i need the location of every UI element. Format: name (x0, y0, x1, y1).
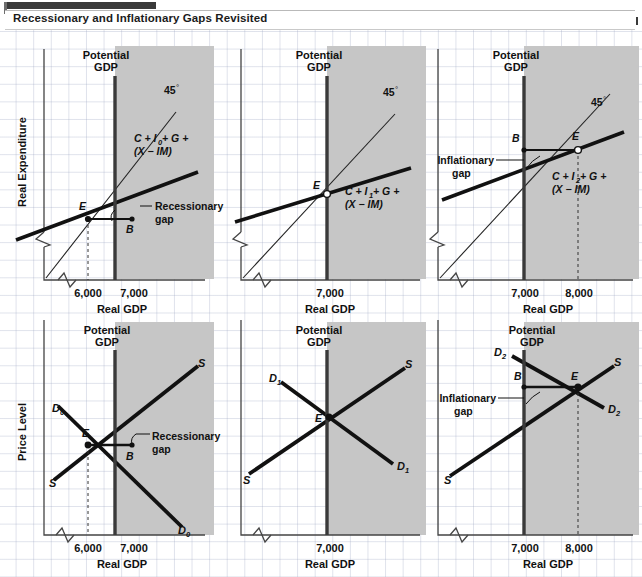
gap-label-line2: gap (152, 443, 171, 455)
point-B-label: B (514, 370, 522, 382)
point-E-label: E (572, 130, 580, 142)
degree-symbol: ° (395, 85, 398, 94)
supply-label-upper: S (198, 357, 206, 369)
x-tick-6000: 6,000 (74, 542, 102, 554)
panel-bottom-left: Potential GDP D 0 D 0 S S E B Recessiona… (0, 312, 214, 577)
gap-label-line1: Inflationary (437, 154, 494, 166)
x-tick-7000: 7,000 (511, 542, 539, 554)
shaded-region (327, 46, 426, 279)
point-E-marker (574, 383, 581, 390)
potential-gdp-label-line1: Potential (84, 324, 130, 336)
forty-five-degree-label: 45 (164, 84, 176, 96)
y-axis-title: Real Expenditure (16, 117, 28, 207)
point-E-label: E (315, 412, 323, 424)
supply-label-lower: S (243, 474, 251, 486)
forty-five-degree-label: 45 (591, 96, 603, 108)
demand-label-lower: D (397, 460, 405, 472)
x-tick-6000: 6,000 (74, 287, 102, 299)
point-B-label: B (126, 450, 134, 462)
gap-label-line2: gap (452, 167, 471, 179)
point-E-marker (575, 147, 582, 154)
document-header: Recessionary and Inflationary Gaps Revis… (0, 0, 642, 30)
potential-gdp-label-line2: GDP (307, 336, 331, 348)
shaded-region (115, 46, 214, 279)
x-tick-7000: 7,000 (316, 542, 344, 554)
demand-label-lower: D (608, 403, 616, 415)
panel-top-center: Potential GDP 45 ° C + I 1 + G + (X − IM… (215, 32, 427, 317)
potential-gdp-label-line1: Potential (296, 324, 342, 336)
x-tick-7000: 7,000 (120, 542, 148, 554)
potential-gdp-label-line1: Potential (83, 49, 129, 61)
supply-label-upper: S (614, 356, 622, 368)
x-axis-title: Real GDP (305, 558, 355, 570)
potential-gdp-label-line2: GDP (520, 336, 544, 348)
panel-top-right: Potential GDP 45 ° C + I 2 + G + (X − IM… (428, 32, 642, 317)
y-axis-title: Price Level (16, 403, 28, 461)
supply-label-lower: S (49, 477, 57, 489)
point-B-marker (129, 216, 134, 221)
point-E-marker (85, 216, 91, 222)
forty-five-degree-label: 45 (383, 86, 395, 98)
x-tick-7000: 7,000 (120, 287, 148, 299)
curve-label-line1-rest: + G + (580, 170, 606, 182)
point-E-label: E (79, 200, 87, 212)
panel-bottom-right: Potential GDP D 2 D 2 S S B E Inflationa… (428, 312, 642, 577)
x-tick-7000: 7,000 (511, 287, 539, 299)
potential-gdp-label-line2: GDP (94, 61, 118, 73)
tab-stub-decoration (4, 2, 156, 9)
demand-subscript-lower: 2 (615, 409, 621, 418)
curve-label-line1: C + I (134, 132, 158, 144)
shaded-region (115, 322, 214, 535)
curve-label-line1: C + I (552, 170, 576, 182)
curve-label-line1-rest: + G + (162, 132, 188, 144)
gap-label-line2: gap (454, 405, 473, 417)
y-axis-break-icon (430, 232, 444, 247)
potential-gdp-label-line1: Potential (493, 49, 539, 61)
point-B-label: B (512, 132, 520, 144)
degree-symbol: ° (603, 95, 606, 104)
x-tick-8000: 8,000 (565, 287, 593, 299)
point-E-label: E (571, 370, 579, 382)
panel-bottom-center: Potential GDP D 1 D 1 S S E 7,000 Real G… (215, 312, 427, 577)
point-B-marker (521, 384, 526, 389)
demand-subscript-upper: 2 (501, 352, 507, 361)
point-B-marker (521, 147, 526, 152)
demand-label-lower: D (178, 524, 186, 536)
gap-label-line1: Recessionary (152, 430, 220, 442)
curve-label-line2: (X − IM) (552, 183, 590, 195)
potential-gdp-label-line2: GDP (307, 61, 331, 73)
demand-subscript-upper: 1 (277, 378, 281, 387)
x-axis-title: Real GDP (97, 558, 147, 570)
degree-symbol: ° (176, 83, 179, 92)
supply-label-upper: S (405, 358, 413, 370)
potential-gdp-label-line2: GDP (95, 336, 119, 348)
supply-label-lower: S (444, 474, 452, 486)
panel-top-left: Potential GDP 45 ° C + I 0 + G + (X − IM… (0, 32, 214, 317)
point-E-marker (325, 413, 332, 420)
potential-gdp-label-line1: Potential (509, 324, 555, 336)
x-axis-title: Real GDP (523, 558, 573, 570)
demand-label-upper: D (52, 402, 60, 414)
demand-label-upper: D (494, 346, 502, 358)
x-tick-8000: 8,000 (565, 542, 593, 554)
curve-label-line1-rest: + G + (373, 185, 399, 197)
y-axis-break-icon (233, 232, 247, 247)
gap-label-line1: Recessionary (155, 200, 223, 212)
gap-label-line2: gap (155, 213, 174, 225)
shaded-region (524, 322, 639, 535)
demand-subscript-lower: 1 (405, 466, 409, 475)
potential-gdp-label-line1: Potential (296, 49, 342, 61)
right-margin-tick (636, 17, 638, 25)
demand-label-upper: D (269, 372, 277, 384)
curve-label-line2: (X − IM) (134, 145, 172, 157)
y-axis-break-icon (36, 232, 50, 247)
point-B-label: B (126, 223, 134, 235)
point-E-label: E (313, 179, 321, 191)
curve-label-line2: (X − IM) (345, 198, 383, 210)
point-E-marker (324, 191, 331, 198)
x-tick-7000: 7,000 (316, 287, 344, 299)
point-E-marker (85, 442, 92, 449)
page-title: Recessionary and Inflationary Gaps Revis… (13, 12, 267, 24)
gap-label-line1: Inflationary (439, 392, 496, 404)
point-B-marker (129, 442, 134, 447)
